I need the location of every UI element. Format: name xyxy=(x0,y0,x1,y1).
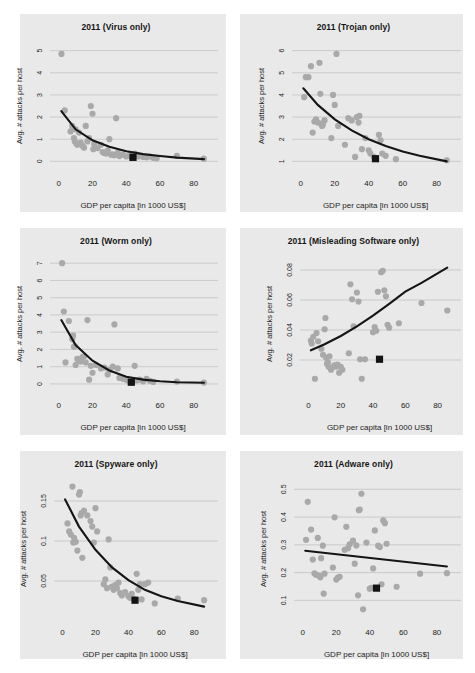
x-tick-label: 60 xyxy=(399,628,408,637)
y-tick-label: 3 xyxy=(36,330,43,334)
data-point xyxy=(326,353,332,359)
y-tick-label: 5 xyxy=(278,71,285,75)
x-tick-label: 0 xyxy=(57,179,62,188)
data-point xyxy=(382,520,388,526)
y-tick-label: 4 xyxy=(36,313,43,317)
data-point xyxy=(444,307,450,313)
y-tick-label: 6 xyxy=(278,49,285,53)
y-tick-label: 0.2 xyxy=(280,568,287,578)
y-axis-label: Avg. # attacks per host xyxy=(15,67,24,144)
data-point xyxy=(69,484,75,490)
data-point xyxy=(309,340,315,346)
data-point xyxy=(330,92,336,98)
data-point xyxy=(87,518,93,524)
x-tick-label: 20 xyxy=(332,628,341,637)
y-tick-label: 0.5 xyxy=(280,484,287,494)
x-tick-label: 80 xyxy=(432,628,441,637)
x-tick-label: 0 xyxy=(300,628,305,637)
data-point xyxy=(303,537,309,543)
x-tick-label: 40 xyxy=(122,179,131,188)
x-tick-label: 60 xyxy=(156,401,165,410)
data-point xyxy=(317,91,323,97)
data-point xyxy=(89,524,95,530)
y-tick-label: 4 xyxy=(36,71,43,75)
data-point xyxy=(370,565,376,571)
data-point xyxy=(393,156,399,162)
x-tick-label: 80 xyxy=(433,401,442,410)
data-point xyxy=(362,356,368,362)
data-point xyxy=(138,596,144,602)
highlight-marker xyxy=(372,155,379,162)
data-point xyxy=(83,123,89,129)
data-point xyxy=(337,574,343,580)
data-point xyxy=(322,315,328,321)
y-tick-label: 0.02 xyxy=(286,353,293,367)
data-point xyxy=(305,74,311,80)
x-tick-label: 40 xyxy=(122,401,131,410)
data-point xyxy=(84,512,90,518)
y-tick-label: 6 xyxy=(36,278,43,282)
data-point xyxy=(356,113,362,119)
data-point xyxy=(342,142,348,148)
x-axis-label: GDP per capita [in 1000 US$] xyxy=(323,201,428,210)
y-tick-label: 1 xyxy=(278,159,285,163)
data-point xyxy=(132,363,138,369)
x-tick-label: 60 xyxy=(398,179,407,188)
y-tick-label: 0.1 xyxy=(280,595,287,605)
data-point xyxy=(360,606,366,612)
figure-grid: 2011 (Virus only) 012345020406080GDP per… xyxy=(0,0,475,673)
y-tick-label: 0.1 xyxy=(40,536,47,546)
x-tick-label: 60 xyxy=(401,401,410,410)
trend-line xyxy=(311,268,447,351)
plot-area: 0.10.20.30.40.5020406080GDP per capita [… xyxy=(232,445,475,673)
data-point xyxy=(321,591,327,597)
data-point xyxy=(363,540,369,546)
data-point xyxy=(321,571,327,577)
data-point xyxy=(81,145,87,151)
x-tick-label: 20 xyxy=(91,628,100,637)
y-tick-label: 3 xyxy=(278,115,285,119)
data-point xyxy=(380,268,386,274)
data-point xyxy=(313,330,319,336)
x-tick-label: 80 xyxy=(190,628,199,637)
data-point xyxy=(357,506,363,512)
x-tick-label: 0 xyxy=(60,628,65,637)
x-tick-label: 80 xyxy=(189,401,198,410)
data-point xyxy=(316,60,322,66)
data-point xyxy=(94,528,100,534)
data-point xyxy=(308,526,314,532)
plot-area: 0.050.10.15020406080GDP per capita [in 1… xyxy=(0,445,232,673)
data-point xyxy=(86,377,92,383)
data-point xyxy=(301,94,307,100)
data-point xyxy=(145,580,151,586)
data-point xyxy=(353,542,359,548)
data-point xyxy=(310,556,316,562)
y-tick-label: 0.15 xyxy=(40,494,47,508)
data-point xyxy=(308,63,314,69)
data-point xyxy=(331,514,337,520)
y-tick-label: 0.3 xyxy=(280,540,287,550)
data-point xyxy=(349,117,355,123)
y-tick-label: 1 xyxy=(36,365,43,369)
data-point xyxy=(89,370,95,376)
data-point xyxy=(383,541,389,547)
data-point xyxy=(315,338,321,344)
data-point xyxy=(359,376,365,382)
data-point xyxy=(332,102,338,108)
data-point xyxy=(113,115,119,121)
highlight-marker xyxy=(376,356,383,363)
data-point xyxy=(359,146,365,152)
y-axis-label: Avg. # attacks per host xyxy=(15,285,24,362)
highlight-marker xyxy=(373,585,380,592)
x-tick-label: 40 xyxy=(364,179,373,188)
y-tick-label: 0.04 xyxy=(286,323,293,337)
data-point xyxy=(64,520,70,526)
data-point xyxy=(305,499,311,505)
data-point xyxy=(115,365,121,371)
data-point xyxy=(106,136,112,142)
x-axis-label: GDP per capita [in 1000 US$] xyxy=(82,650,187,659)
data-point xyxy=(355,298,361,304)
data-point xyxy=(74,548,80,554)
plot-area: 123456020406080GDP per capita [in 1000 U… xyxy=(232,0,475,222)
y-tick-label: 4 xyxy=(278,93,285,97)
